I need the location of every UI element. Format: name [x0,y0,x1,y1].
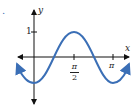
pi-half-numerator: π [70,63,79,71]
y-tick-label-1: 1 [26,27,32,36]
pi-half-denominator: 2 [72,73,77,82]
curve-arrow-right [126,64,129,71]
x-axis-label: x [125,44,130,53]
y-axis-label: y [38,6,43,15]
x-tick-label-pi: π [109,62,114,70]
graph-canvas [0,0,133,108]
item-bullet: . [2,6,5,16]
x-tick-label-pi-half: π 2 [70,63,79,82]
curve-arrow-left [17,64,20,71]
